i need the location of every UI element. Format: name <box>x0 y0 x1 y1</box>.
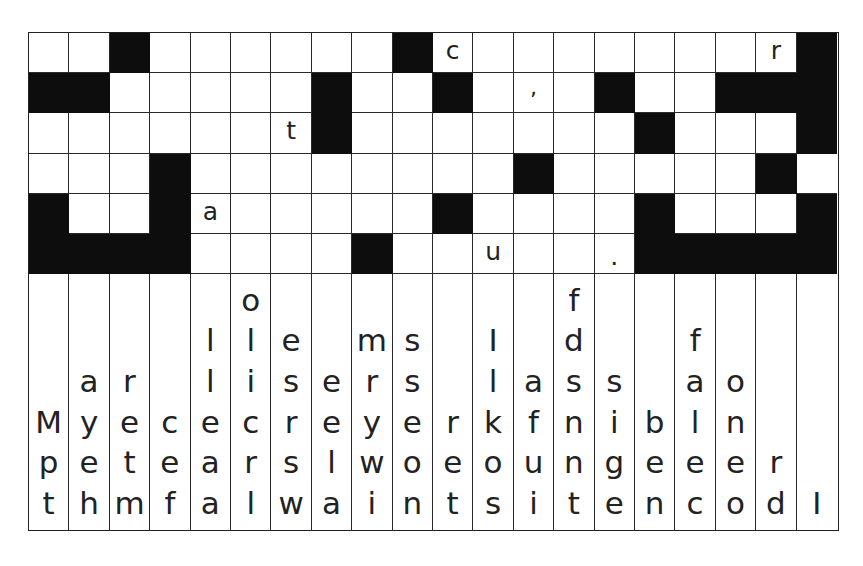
grid-cell[interactable] <box>110 194 150 234</box>
letter-tile[interactable]: y <box>69 402 108 443</box>
letter-tile[interactable]: e <box>69 443 108 484</box>
grid-cell[interactable]: r <box>756 33 796 73</box>
grid-cell[interactable] <box>312 194 352 234</box>
grid-cell[interactable] <box>150 113 190 153</box>
grid-cell[interactable] <box>635 33 675 73</box>
grid-cell[interactable] <box>29 113 69 153</box>
grid-cell[interactable] <box>150 73 190 113</box>
grid-cell[interactable] <box>595 113 635 153</box>
grid-cell[interactable] <box>29 154 69 194</box>
grid-cell[interactable] <box>716 33 756 73</box>
grid-cell[interactable] <box>271 154 311 194</box>
grid-cell[interactable] <box>352 113 392 153</box>
letter-tile[interactable]: a <box>191 483 230 524</box>
letter-tile[interactable]: c <box>675 483 714 524</box>
grid-cell[interactable] <box>69 33 109 73</box>
letter-tile[interactable]: a <box>675 361 714 402</box>
letter-tile[interactable]: e <box>595 483 634 524</box>
letter-tile[interactable]: e <box>312 402 351 443</box>
grid-cell[interactable] <box>312 33 352 73</box>
grid-cell[interactable] <box>312 234 352 274</box>
letter-tile[interactable]: s <box>473 483 512 524</box>
letter-tile[interactable]: I <box>797 483 837 524</box>
letter-tile[interactable]: w <box>271 483 310 524</box>
letter-tile[interactable]: r <box>352 361 391 402</box>
grid-cell[interactable] <box>271 33 311 73</box>
grid-cell[interactable] <box>231 194 271 234</box>
letter-tile[interactable]: n <box>554 402 593 443</box>
grid-cell[interactable] <box>433 154 473 194</box>
grid-cell[interactable] <box>191 154 231 194</box>
letter-tile[interactable]: r <box>271 402 310 443</box>
letter-tile[interactable]: h <box>69 483 108 524</box>
letter-tile[interactable]: e <box>110 402 149 443</box>
grid-cell[interactable] <box>514 234 554 274</box>
letter-tile[interactable]: e <box>191 402 230 443</box>
letter-tile[interactable]: n <box>393 483 432 524</box>
grid-cell[interactable] <box>393 194 433 234</box>
grid-cell[interactable] <box>595 33 635 73</box>
letter-tile[interactable]: l <box>312 443 351 484</box>
grid-cell[interactable] <box>191 113 231 153</box>
grid-cell[interactable] <box>271 73 311 113</box>
letter-tile[interactable]: e <box>716 443 755 484</box>
letter-tile[interactable]: e <box>433 443 472 484</box>
letter-tile[interactable]: s <box>393 321 432 362</box>
letter-tile[interactable]: t <box>110 443 149 484</box>
grid-cell[interactable] <box>231 33 271 73</box>
grid-cell[interactable] <box>514 113 554 153</box>
letter-tile[interactable]: l <box>231 483 270 524</box>
letter-tile[interactable]: i <box>595 402 634 443</box>
letter-tile[interactable]: g <box>595 443 634 484</box>
letter-tile[interactable]: c <box>231 402 270 443</box>
grid-cell[interactable] <box>352 33 392 73</box>
grid-cell[interactable] <box>716 194 756 234</box>
grid-cell[interactable] <box>69 113 109 153</box>
grid-cell[interactable] <box>716 113 756 153</box>
letter-tile[interactable]: a <box>514 361 553 402</box>
grid-cell[interactable] <box>433 113 473 153</box>
grid-cell[interactable] <box>69 154 109 194</box>
letter-tile[interactable]: i <box>231 361 270 402</box>
letter-tile[interactable]: r <box>231 443 270 484</box>
grid-cell[interactable] <box>595 154 635 194</box>
letter-tile[interactable]: M <box>29 402 68 443</box>
letter-tile[interactable]: o <box>716 483 755 524</box>
letter-tile[interactable]: f <box>514 402 553 443</box>
grid-cell[interactable] <box>554 194 594 234</box>
letter-tile[interactable]: e <box>675 443 714 484</box>
letter-tile[interactable]: l <box>191 361 230 402</box>
grid-cell[interactable] <box>554 234 594 274</box>
grid-cell[interactable] <box>554 33 594 73</box>
grid-cell[interactable] <box>352 194 392 234</box>
grid-cell[interactable] <box>191 73 231 113</box>
grid-cell[interactable]: , <box>514 73 554 113</box>
grid-cell[interactable] <box>352 73 392 113</box>
grid-cell[interactable] <box>231 154 271 194</box>
grid-cell[interactable]: . <box>595 234 635 274</box>
letter-tile[interactable]: e <box>635 443 674 484</box>
letter-tile[interactable]: d <box>554 321 593 362</box>
grid-cell[interactable] <box>110 73 150 113</box>
grid-cell[interactable]: c <box>433 33 473 73</box>
grid-cell[interactable] <box>554 154 594 194</box>
letter-tile[interactable]: l <box>231 321 270 362</box>
letter-tile[interactable]: r <box>110 361 149 402</box>
grid-cell[interactable] <box>110 113 150 153</box>
letter-tile[interactable]: e <box>393 402 432 443</box>
grid-cell[interactable] <box>191 234 231 274</box>
grid-cell[interactable] <box>473 73 513 113</box>
grid-cell[interactable] <box>150 33 190 73</box>
letter-tile[interactable]: t <box>433 483 472 524</box>
grid-cell[interactable] <box>433 234 473 274</box>
letter-tile[interactable]: o <box>393 443 432 484</box>
letter-tile[interactable]: n <box>635 483 674 524</box>
grid-cell[interactable] <box>393 73 433 113</box>
letter-tile[interactable]: y <box>352 402 391 443</box>
letter-tile[interactable]: d <box>756 483 795 524</box>
grid-cell[interactable] <box>595 194 635 234</box>
grid-cell[interactable] <box>756 194 796 234</box>
grid-cell[interactable] <box>393 234 433 274</box>
letter-tile[interactable]: l <box>473 361 512 402</box>
grid-cell[interactable] <box>393 113 433 153</box>
